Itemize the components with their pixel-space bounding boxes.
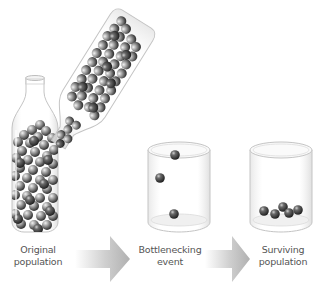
- label-surviving-population: Surviving population: [250, 244, 316, 268]
- bottleneck-glass: [148, 142, 210, 232]
- label-line: Surviving: [250, 244, 316, 256]
- label-line: Bottlenecking: [130, 244, 210, 256]
- label-line: population: [5, 256, 71, 268]
- arrow-right-icon: [75, 236, 130, 282]
- arrow-right-icon: [205, 236, 250, 282]
- bottleneck-diagram: Original population Bottlenecking event …: [0, 0, 327, 282]
- label-bottleneck-event: Bottlenecking event: [130, 244, 210, 268]
- diagram-canvas: [0, 0, 327, 282]
- pouring-bottle: [36, 6, 158, 160]
- label-original-population: Original population: [5, 244, 71, 268]
- label-line: population: [250, 256, 316, 268]
- surviving-glass: [250, 142, 312, 232]
- label-line: Original: [5, 244, 71, 256]
- label-line: event: [130, 256, 210, 268]
- original-bottle: [10, 76, 59, 235]
